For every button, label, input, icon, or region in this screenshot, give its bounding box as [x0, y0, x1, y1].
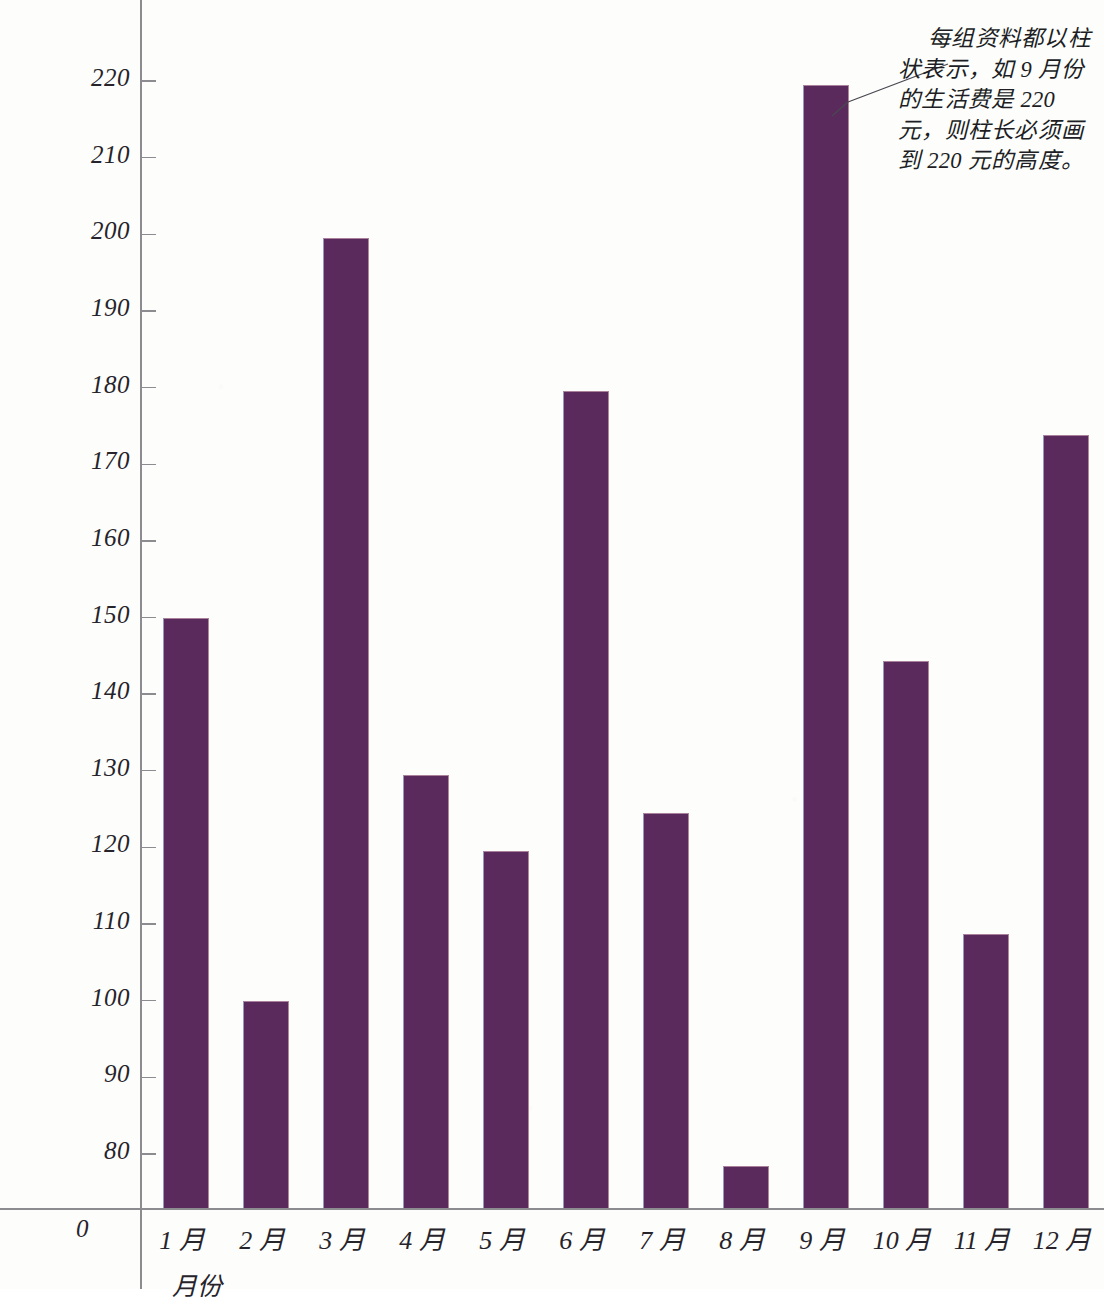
x-axis-tick-label: 12 月: [1022, 1219, 1102, 1256]
y-axis-zero-label: 0: [76, 1215, 89, 1243]
x-axis-tick-label: 6 月: [542, 1219, 622, 1256]
x-axis-tick-label: 5 月: [462, 1219, 542, 1256]
x-axis-baseline: [0, 1208, 1104, 1210]
y-axis-tick-label: 160: [60, 524, 130, 552]
bar: [323, 238, 369, 1208]
y-axis-tick-label: 120: [60, 830, 130, 858]
x-axis-tick-label: 9 月: [782, 1219, 862, 1256]
plot-area: [142, 0, 1102, 1208]
bar: [403, 775, 449, 1208]
x-axis-tick-label: 10 月: [862, 1219, 942, 1256]
x-axis-tick-label: 7 月: [622, 1219, 702, 1256]
bar: [483, 851, 529, 1208]
y-axis-tick-label: 80: [60, 1137, 130, 1165]
x-axis-tick-label: 8 月: [702, 1219, 782, 1256]
x-axis-tick-label: 4 月: [382, 1219, 462, 1256]
bar: [963, 934, 1009, 1208]
x-axis-title: 月份: [172, 1266, 222, 1301]
y-axis-tick-label: 190: [60, 294, 130, 322]
y-axis-tick-label: 130: [60, 754, 130, 782]
y-axis-tick-label: 180: [60, 371, 130, 399]
bar: [163, 618, 209, 1209]
y-axis-tick-label: 220: [60, 64, 130, 92]
y-axis-tick-label: 110: [60, 907, 130, 935]
x-axis-tick-label: 2 月: [222, 1219, 302, 1256]
x-axis-tick-label: 11 月: [942, 1219, 1022, 1256]
bar: [563, 391, 609, 1208]
bar: [723, 1166, 769, 1209]
bar: [243, 1001, 289, 1208]
bar: [643, 813, 689, 1208]
x-axis-tick-label: 3 月: [302, 1219, 382, 1256]
bar: [803, 85, 849, 1208]
y-axis-tick-label: 100: [60, 984, 130, 1012]
x-axis-tick-label: 1 月: [142, 1219, 222, 1256]
y-axis-tick-label: 200: [60, 217, 130, 245]
y-axis-tick-label: 90: [60, 1060, 130, 1088]
bar: [883, 661, 929, 1208]
bar: [1043, 435, 1089, 1208]
y-axis-tick-label: 150: [60, 601, 130, 629]
y-axis-tick-label: 210: [60, 141, 130, 169]
y-axis-tick-label: 140: [60, 677, 130, 705]
annotation-text: 每组资料都以柱状表示，如 9 月份的生活费是 220 元，则柱长必须画到 220…: [898, 24, 1104, 177]
y-axis-tick-label: 170: [60, 447, 130, 475]
